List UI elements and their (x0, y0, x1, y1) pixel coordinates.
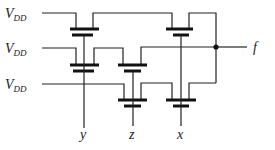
circuit-svg: VDD VDD VDD y z x f (0, 0, 275, 150)
transistor-t2 (166, 29, 193, 35)
vdd2-label: VDD (5, 41, 27, 58)
vdd3-label: VDD (5, 77, 27, 94)
input-label-x: x (176, 127, 184, 142)
input-label-y: y (78, 127, 87, 142)
transistor-t4 (118, 65, 147, 71)
input-label-z: z (128, 127, 135, 142)
transistor-t1 (70, 29, 99, 35)
vdd1-label: VDD (5, 6, 27, 23)
circuit-diagram: VDD VDD VDD y z x f (0, 0, 275, 150)
output-node-dot (213, 44, 218, 49)
output-label-f: f (253, 40, 259, 55)
wire-vdd3-path (42, 83, 216, 100)
wire-vdd2-path (42, 47, 216, 65)
